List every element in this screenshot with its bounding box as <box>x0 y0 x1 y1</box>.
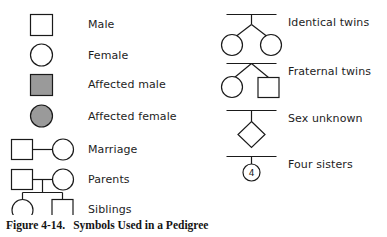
legend-label-affected-female: Affected female <box>88 111 177 122</box>
legend-label-marriage: Marriage <box>88 144 137 155</box>
figure-caption-number: Figure 4-14. <box>6 219 65 231</box>
four-sisters-count-label: 4 <box>249 168 255 178</box>
pedigree-symbols-diagram: 4 <box>0 0 387 215</box>
legend-label-identical-twins: Identical twins <box>288 17 369 28</box>
legend-label-fraternal-twins: Fraternal twins <box>288 66 371 77</box>
legend-label-female: Female <box>88 50 128 61</box>
symbol-male-square <box>31 15 53 36</box>
figure-caption-title: Symbols Used in a Pedigree <box>73 219 208 231</box>
legend-label-male: Male <box>88 19 114 30</box>
legend-label-siblings: Siblings <box>88 204 132 215</box>
figure-caption: Figure 4-14.Symbols Used in a Pedigree <box>6 219 208 232</box>
symbol-fraternal-twins <box>222 64 280 98</box>
symbol-sex-unknown <box>227 111 277 148</box>
symbol-marriage <box>12 139 74 160</box>
pedigree-symbols-figure: 4 Male Female Affected male Affected fem… <box>0 0 387 237</box>
legend-label-parents: Parents <box>88 174 130 185</box>
symbol-identical-twins <box>222 15 282 56</box>
symbol-affected-female-circle <box>31 105 53 127</box>
legend-label-four-sisters: Four sisters <box>288 159 353 170</box>
symbol-parents-siblings <box>12 169 74 215</box>
legend-label-sex-unknown: Sex unknown <box>288 113 363 124</box>
symbol-affected-male-square <box>31 75 53 96</box>
symbol-female-circle <box>31 44 53 66</box>
legend-label-affected-male: Affected male <box>88 79 166 90</box>
